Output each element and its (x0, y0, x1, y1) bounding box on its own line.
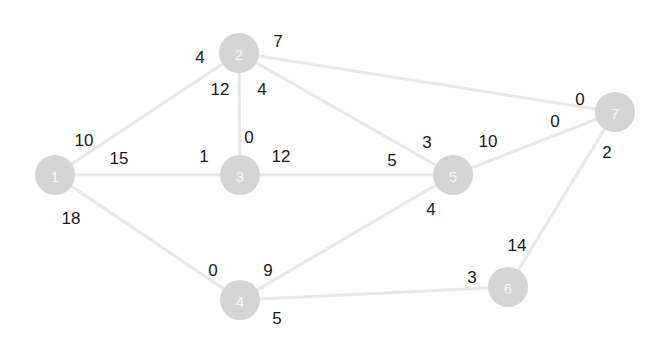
edge-weight-w4-6-b: 3 (467, 268, 476, 287)
edge-weight-w2-7-b: 0 (575, 90, 584, 109)
edge-weight-w4-5-a: 9 (263, 261, 272, 280)
edge-weight-w2-3-a: 12 (211, 80, 230, 99)
graph-edge-n4-n6 (240, 287, 508, 300)
edge-weight-w2-3-b: 0 (244, 128, 253, 147)
graph-node-label-1: 1 (51, 168, 59, 185)
edge-weight-w6-7-b: 2 (602, 143, 611, 162)
graph-edge-n2-n7 (239, 53, 615, 112)
edge-weight-w1-3-a: 15 (110, 149, 129, 168)
edges-layer (55, 53, 615, 300)
graph-edge-n5-n7 (453, 112, 615, 175)
edge-weight-w4-5-b: 4 (426, 200, 435, 219)
graph-edge-n1-n2 (55, 53, 239, 175)
edge-weight-w5-7-b: 0 (550, 112, 559, 131)
graph-edge-n6-n7 (508, 112, 615, 287)
edge-weight-w1-4-a: 18 (62, 209, 81, 228)
graph-node-label-2: 2 (235, 46, 243, 63)
graph-node-label-4: 4 (236, 293, 244, 310)
edge-weight-w2-7-a: 7 (273, 32, 282, 51)
edge-weight-w2-5-b: 3 (422, 133, 431, 152)
graph-node-label-3: 3 (236, 168, 244, 185)
edge-weight-w2-5-a: 4 (257, 80, 266, 99)
edge-weight-w1-2-b: 4 (195, 48, 204, 67)
graph-edge-n4-n5 (240, 175, 453, 300)
edge-weight-w1-3-b: 1 (199, 147, 208, 166)
graph-node-label-7: 7 (611, 105, 619, 122)
graph-node-label-5: 5 (449, 168, 457, 185)
graph-node-label-6: 6 (504, 280, 512, 297)
edge-weight-w3-5-a: 12 (272, 147, 291, 166)
weighted-graph-diagram: 1234567 10415118012043701259453100142 (0, 0, 665, 347)
edge-weight-w6-7-a: 14 (508, 236, 527, 255)
edge-weights-layer: 10415118012043701259453100142 (62, 32, 612, 328)
edge-weight-w4-6-a: 5 (272, 309, 281, 328)
edge-weight-w5-7-a: 10 (479, 132, 498, 151)
edge-weight-w3-5-b: 5 (387, 151, 396, 170)
edge-weight-w1-4-b: 0 (208, 261, 217, 280)
graph-edge-n1-n4 (55, 175, 240, 300)
edge-weight-w1-2-a: 10 (75, 131, 94, 150)
